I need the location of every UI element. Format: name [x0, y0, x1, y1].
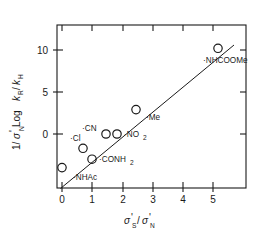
- x-tick-label-0: 0: [59, 194, 65, 205]
- y-tick-label-0: 0: [42, 129, 48, 140]
- y-axis-log: Log: [11, 110, 22, 127]
- point-label-conh2-sub: 2: [130, 159, 134, 166]
- x-axis-ticks: [62, 25, 213, 192]
- plot-frame: [57, 25, 246, 188]
- y-tick-label-10: 10: [37, 45, 49, 56]
- data-point-me: [132, 105, 140, 113]
- point-label-conh2-main: ·CONH: [99, 155, 126, 164]
- data-point-nhcoome: [214, 44, 222, 52]
- data-point-cl: [79, 144, 87, 152]
- point-label-no2: ·NO 2: [124, 130, 147, 141]
- y-axis-sub-h: H: [17, 74, 24, 79]
- x-tick-label-3: 3: [150, 194, 156, 205]
- scatter-plot-figure: 10 5 0 0 1 2 3 4 5 ·NHAc ·Cl ·CONH 2 ·CN…: [0, 0, 261, 238]
- point-label-cl: ·Cl: [70, 134, 81, 143]
- data-point-nhac: [58, 163, 66, 171]
- x-axis-sigma-1: σ: [124, 215, 131, 226]
- y-axis-sigma: σ: [11, 132, 22, 139]
- y-axis-slash: /: [11, 87, 22, 90]
- point-label-me: ·Me: [146, 113, 161, 122]
- y-tick-label-5: 5: [42, 87, 48, 98]
- point-label-conh2: ·CONH 2: [99, 155, 134, 166]
- point-label-no2-main: ·NO: [124, 130, 139, 139]
- plot-canvas: 10 5 0 0 1 2 3 4 5 ·NHAc ·Cl ·CONH 2 ·CN…: [0, 0, 261, 238]
- y-axis-prefix: 1/: [11, 141, 22, 150]
- point-label-nhcoome: ·NHCOOMe: [203, 56, 248, 65]
- x-tick-label-5: 5: [210, 194, 216, 205]
- x-axis-slash: /: [137, 215, 140, 226]
- x-axis-title: σ ' S / σ ' N: [124, 212, 155, 229]
- data-markers: [58, 44, 222, 172]
- x-tick-label-1: 1: [89, 194, 95, 205]
- data-point-cn: [102, 130, 110, 138]
- point-label-nhac: ·NHAc: [73, 173, 97, 182]
- point-label-no2-sub: 2: [143, 134, 147, 141]
- x-axis-sub-n: N: [150, 222, 155, 229]
- point-label-cn: ·CN: [82, 124, 97, 133]
- y-axis-title: 1/ σ ' N Log k R / k H: [8, 74, 25, 150]
- x-axis-sigma-2: σ: [142, 215, 149, 226]
- data-point-no2: [113, 130, 121, 138]
- x-tick-label-4: 4: [180, 194, 186, 205]
- x-tick-label-2: 2: [120, 194, 126, 205]
